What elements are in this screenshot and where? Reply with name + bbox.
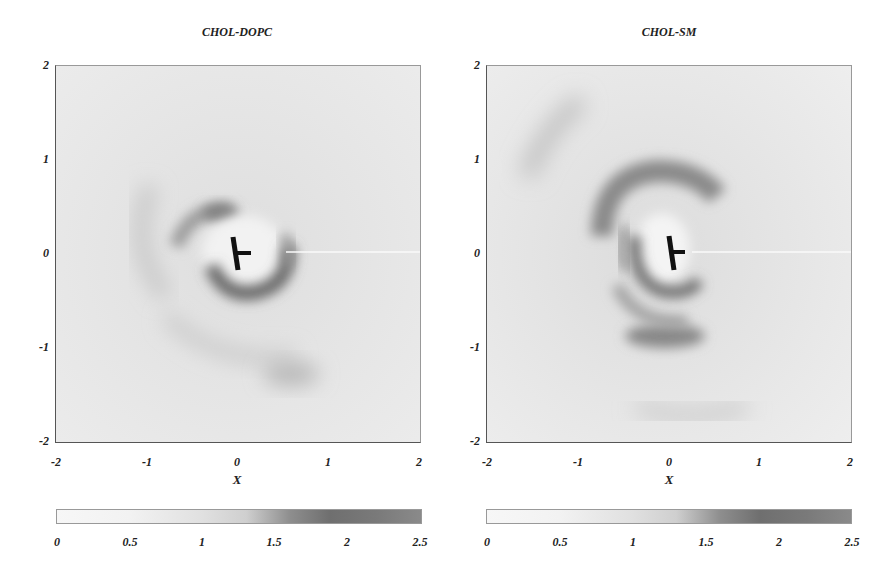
heatmap-panel-left <box>55 65 421 443</box>
colorbar-tick-label: 0.5 <box>545 535 575 550</box>
colorbar-tick-label: 1.5 <box>259 535 289 550</box>
colorbar-tick-label: 2 <box>332 535 362 550</box>
colorbar-left <box>56 509 422 524</box>
colorbar-tick-label: 2.5 <box>405 535 435 550</box>
xtick-label: 1 <box>318 455 338 470</box>
colorbar-tick-label: 1 <box>187 535 217 550</box>
ytick-label: -2 <box>29 434 49 449</box>
colorbar-tick-label: 1.5 <box>691 535 721 550</box>
colorbar-tick-label: 1 <box>618 535 648 550</box>
colorbar-right <box>486 509 852 524</box>
xtick-label: 2 <box>840 455 860 470</box>
ytick-label: 2 <box>29 58 49 73</box>
xtick-label: 1 <box>749 455 769 470</box>
ytick-label: 2 <box>460 58 480 73</box>
x-axis-label: X <box>227 472 247 488</box>
colorbar-tick-label: 0 <box>42 535 72 550</box>
ytick-label: 0 <box>460 246 480 261</box>
x-axis-label: X <box>659 472 679 488</box>
ytick-label: 1 <box>29 152 49 167</box>
xtick-label: 2 <box>409 455 429 470</box>
colorbar-tick-label: 0 <box>472 535 502 550</box>
plot-title-right: CHOL-SM <box>569 25 769 40</box>
xtick-label: -1 <box>137 455 157 470</box>
ytick-label: 0 <box>29 246 49 261</box>
density-map-right <box>487 66 851 442</box>
ytick-label: -1 <box>29 340 49 355</box>
density-map-left <box>56 66 420 442</box>
colorbar-tick-label: 0.5 <box>115 535 145 550</box>
ytick-label: -2 <box>460 434 480 449</box>
xtick-label: 0 <box>659 455 679 470</box>
xtick-label: -1 <box>568 455 588 470</box>
ytick-label: -1 <box>460 340 480 355</box>
xtick-label: -2 <box>477 455 497 470</box>
xtick-label: -2 <box>46 455 66 470</box>
colorbar-tick-label: 2.5 <box>837 535 867 550</box>
xtick-label: 0 <box>227 455 247 470</box>
ytick-label: 1 <box>460 152 480 167</box>
plot-title-left: CHOL-DOPC <box>137 25 337 40</box>
colorbar-tick-label: 2 <box>764 535 794 550</box>
heatmap-panel-right <box>486 65 852 443</box>
